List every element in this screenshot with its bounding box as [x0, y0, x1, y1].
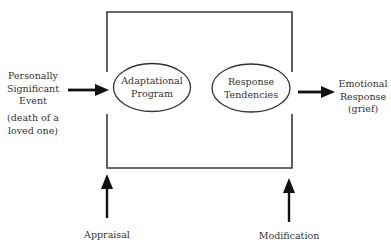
appraisal-arrow	[101, 174, 113, 218]
input-note-line-2: loved one)	[2, 125, 64, 138]
modification-arrow	[283, 178, 295, 222]
appraisal-label: Appraisal	[77, 229, 137, 242]
input-event-label: Personally Significant Event	[2, 70, 64, 108]
input-line-1: Personally	[2, 70, 64, 83]
output-arrow	[298, 86, 335, 98]
input-line-3: Event	[2, 95, 64, 108]
adaptational-program-label: Adaptational Program	[114, 75, 190, 100]
input-note-line-1: (death of a	[2, 112, 64, 125]
input-line-2: Significant	[2, 83, 64, 96]
input-event-note: (death of a loved one)	[2, 112, 64, 137]
output-line-3: (grief)	[336, 103, 390, 116]
input-arrow	[68, 84, 109, 96]
response-tendencies-label: Response Tendencies	[213, 76, 289, 101]
output-line-1: Emotional	[336, 78, 390, 91]
response-tendencies-line-2: Tendencies	[213, 89, 289, 102]
response-tendencies-line-1: Response	[213, 76, 289, 89]
adaptational-program-line-1: Adaptational	[114, 75, 190, 88]
modification-label: Modification	[254, 230, 324, 243]
emotional-response-label: Emotional Response (grief)	[336, 78, 390, 116]
adaptational-program-line-2: Program	[114, 88, 190, 101]
output-line-2: Response	[336, 91, 390, 104]
